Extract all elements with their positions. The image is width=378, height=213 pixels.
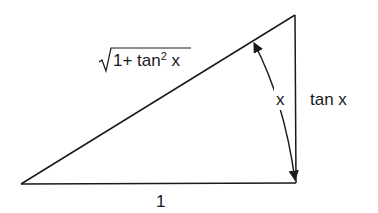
base-label: 1 xyxy=(156,192,165,211)
vertical-side-line xyxy=(295,15,296,183)
base-line xyxy=(21,183,296,184)
angle-arc-arrow xyxy=(254,43,295,180)
hypotenuse-line xyxy=(21,15,295,184)
hypotenuse-label: 1+ tan2 x xyxy=(99,48,191,71)
svg-text:1+ tan2 x: 1+ tan2 x xyxy=(113,50,181,70)
trig-triangle-diagram: 1+ tan2 x x tan x 1 xyxy=(0,0,378,213)
angle-label: x xyxy=(276,90,285,109)
vertical-side-label: tan x xyxy=(310,90,347,109)
